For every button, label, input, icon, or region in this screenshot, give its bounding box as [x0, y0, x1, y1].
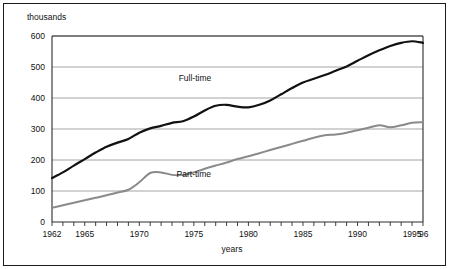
ytick-label-500: 500	[31, 62, 45, 72]
xaxis-title: years	[222, 244, 243, 254]
annotation-part-time: Part-time	[177, 169, 212, 179]
xtick-label-1980: 1980	[239, 229, 258, 239]
ytick-label-400: 400	[31, 93, 45, 103]
xtick-label-1990: 1990	[348, 229, 367, 239]
xtick-label-1996: '96	[417, 229, 428, 239]
xtick-label-1975: 1975	[184, 229, 203, 239]
yaxis-tick-labels-group: 0100200300400500600	[31, 31, 45, 227]
ytick-label-0: 0	[40, 217, 45, 227]
series-line-full-time	[52, 41, 423, 178]
data-series-group	[52, 41, 423, 207]
xtick-label-1962: 1962	[43, 229, 62, 239]
ytick-label-100: 100	[31, 186, 45, 196]
xtick-label-1965: 1965	[75, 229, 94, 239]
xtick-label-1970: 1970	[130, 229, 149, 239]
ytick-label-600: 600	[31, 31, 45, 41]
yaxis-unit-label: thousands	[27, 12, 66, 22]
annotation-full-time: Full-time	[179, 73, 212, 83]
gridlines-group	[52, 36, 423, 191]
xtick-label-1985: 1985	[294, 229, 313, 239]
series-annotations-group: Full-timePart-time	[177, 73, 212, 179]
ytick-label-200: 200	[31, 155, 45, 165]
chart-figure: 0100200300400500600 19621965197019751980…	[0, 0, 449, 269]
series-line-part-time	[52, 122, 423, 208]
ytick-label-300: 300	[31, 124, 45, 134]
line-chart: 0100200300400500600 19621965197019751980…	[0, 0, 449, 269]
xaxis-tick-labels-group: 19621965197019751980198519901995'96	[43, 229, 429, 239]
xaxis-tick-marks-group	[52, 222, 423, 226]
